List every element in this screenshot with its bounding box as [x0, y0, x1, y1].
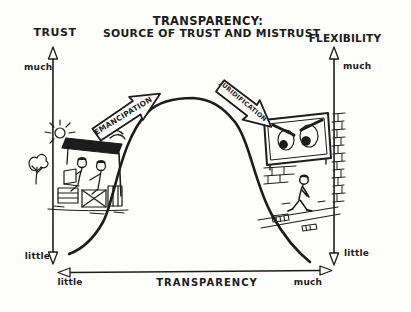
- people-under-canopy-scene: [29, 120, 128, 214]
- transparency-axis: [58, 266, 332, 277]
- trust-axis-label: TRUST: [27, 27, 83, 40]
- trust-axis: [49, 47, 58, 264]
- flexibility-axis-label: FLEXIBILITY: [301, 32, 389, 44]
- tree-icon: [29, 154, 48, 184]
- sketch-artwork: [0, 0, 411, 312]
- diagram-canvas: TRANSPARENCY: SOURCE OF TRUST AND MISTRU…: [0, 0, 411, 312]
- trust-little-tick: little: [20, 251, 50, 261]
- walking-person: [288, 175, 312, 211]
- diagram-title: TRANSPARENCY: SOURCE OF TRUST AND MISTRU…: [103, 15, 313, 41]
- laptop-icon: [64, 169, 79, 186]
- flexibility-little-tick: little: [344, 248, 380, 258]
- trust-much-tick: much: [24, 62, 50, 72]
- transparency-axis-label: TRANSPARENCY: [156, 277, 258, 289]
- title-line-2: SOURCE OF TRUST AND MISTRUST: [103, 28, 313, 40]
- transparency-much-tick: much: [292, 277, 324, 287]
- flexibility-much-tick: much: [343, 61, 377, 71]
- transparency-little-tick: little: [55, 277, 85, 287]
- sidewalk: [258, 201, 340, 231]
